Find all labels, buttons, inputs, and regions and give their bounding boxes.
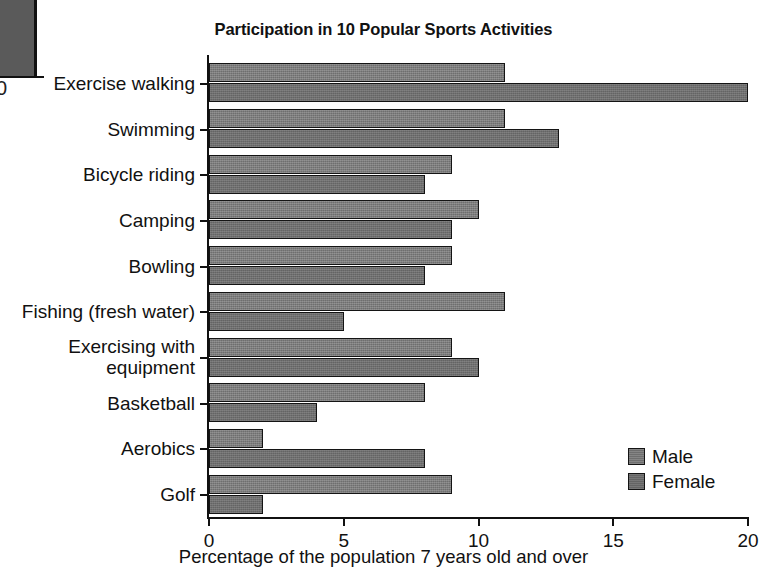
category-label: Bowling <box>0 255 195 276</box>
y-axis-tick <box>200 83 209 85</box>
y-axis-tick <box>200 174 209 176</box>
x-axis-tick <box>612 517 614 526</box>
bar-male <box>209 200 479 219</box>
x-axis-tick <box>747 517 749 526</box>
x-axis-tick <box>478 517 480 526</box>
bar-male <box>209 383 425 402</box>
y-axis-tick <box>200 403 209 405</box>
y-axis-tick <box>200 311 209 313</box>
bar-female <box>209 495 263 514</box>
bar-female <box>209 312 344 331</box>
bar-female <box>209 449 425 468</box>
legend-swatch-male <box>628 448 645 465</box>
category-label: Camping <box>0 209 195 230</box>
legend-swatch-female <box>628 473 645 490</box>
bar-female <box>209 175 425 194</box>
bar-female <box>209 129 559 148</box>
category-label: Bicycle riding <box>0 164 195 185</box>
x-axis-tick <box>343 517 345 526</box>
x-axis-caption: Percentage of the population 7 years old… <box>0 546 767 568</box>
bar-male <box>209 155 452 174</box>
y-axis-tick <box>200 494 209 496</box>
bar-male <box>209 292 505 311</box>
chart-legend: MaleFemale <box>628 444 715 494</box>
y-axis-tick <box>200 220 209 222</box>
legend-item-male: Male <box>628 444 715 469</box>
bar-female <box>209 266 425 285</box>
y-axis-tick <box>200 129 209 131</box>
bar-male <box>209 429 263 448</box>
bar-male <box>209 109 505 128</box>
category-label: Exercising with equipment <box>0 336 195 378</box>
legend-label-male: Male <box>652 447 693 466</box>
category-axis-labels: Exercise walkingSwimmingBicycle ridingCa… <box>0 60 201 517</box>
category-label: Aerobics <box>0 438 195 459</box>
y-axis-tick <box>200 266 209 268</box>
category-label: Swimming <box>0 118 195 139</box>
bar-male <box>209 246 452 265</box>
category-label: Fishing (fresh water) <box>0 301 195 322</box>
category-label: Exercise walking <box>0 72 195 93</box>
bar-female <box>209 220 452 239</box>
legend-item-female: Female <box>628 469 715 494</box>
category-label: Basketball <box>0 392 195 413</box>
y-axis-tick <box>200 448 209 450</box>
y-axis-tick <box>200 357 209 359</box>
bar-female <box>209 403 317 422</box>
bar-male <box>209 63 505 82</box>
category-label: Golf <box>0 484 195 505</box>
bar-male <box>209 475 452 494</box>
chart-title: Participation in 10 Popular Sports Activ… <box>0 20 767 39</box>
bar-male <box>209 338 452 357</box>
x-axis-tick <box>208 517 210 526</box>
bar-female <box>209 358 479 377</box>
legend-label-female: Female <box>652 472 715 491</box>
bar-female <box>209 83 748 102</box>
